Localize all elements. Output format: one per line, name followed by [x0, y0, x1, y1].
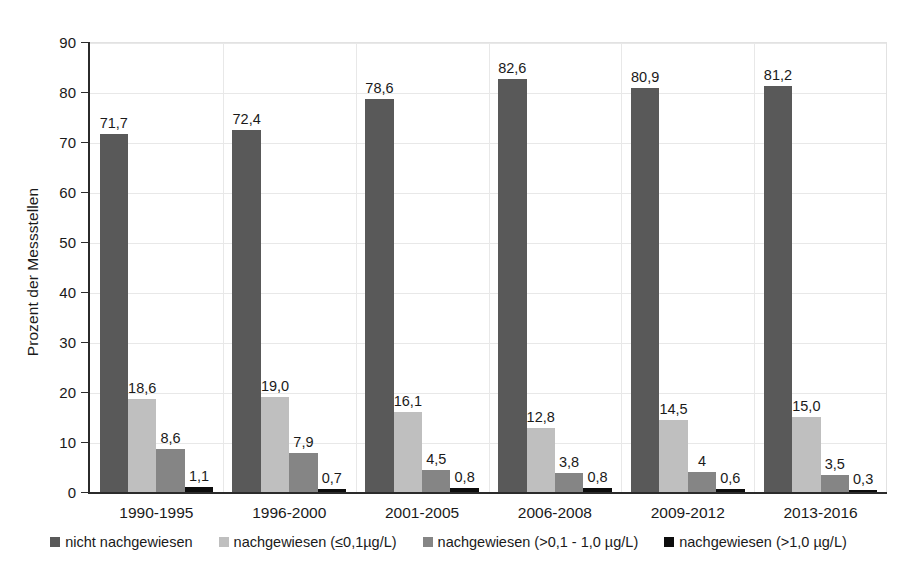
bar[interactable]: 7,9 — [289, 453, 317, 493]
x-axis-label: 1990-1995 — [90, 504, 223, 522]
bar[interactable]: 15,0 — [792, 417, 820, 492]
bar-value-label: 18,6 — [128, 380, 156, 396]
bar-group: 82,612,83,80,8 — [489, 43, 622, 492]
legend-swatch-icon — [50, 537, 60, 547]
chart-legend: nicht nachgewiesennachgewiesen (≤0,1µg/L… — [0, 534, 897, 550]
bar-value-label: 82,6 — [498, 60, 526, 76]
y-axis-line — [88, 42, 90, 493]
bar-group: 72,419,07,90,7 — [223, 43, 356, 492]
bar-group: 78,616,14,50,8 — [356, 43, 489, 492]
bar[interactable]: 12,8 — [527, 428, 555, 492]
y-tick-label: 50 — [32, 234, 76, 251]
bar-chart: Prozent der Messstellen 0102030405060708… — [0, 0, 897, 579]
bar[interactable]: 71,7 — [100, 134, 128, 493]
y-tick-label: 20 — [32, 384, 76, 401]
y-tick-label: 40 — [32, 284, 76, 301]
bar-value-label: 0,6 — [720, 470, 740, 486]
plot-area: 71,718,68,61,172,419,07,90,778,616,14,50… — [90, 42, 887, 492]
bar-value-label: 72,4 — [233, 111, 261, 127]
x-axis-label: 2013-2016 — [754, 504, 887, 522]
bar-value-label: 0,3 — [853, 471, 873, 487]
y-tick-label: 10 — [32, 434, 76, 451]
bar[interactable]: 82,6 — [498, 79, 526, 492]
x-axis-label: 1996-2000 — [223, 504, 356, 522]
bar[interactable]: 8,6 — [156, 449, 184, 492]
bar-value-label: 8,6 — [161, 430, 181, 446]
bar[interactable]: 4,5 — [422, 470, 450, 493]
bar-value-label: 3,8 — [559, 454, 579, 470]
legend-swatch-icon — [219, 537, 229, 547]
bar-group: 81,215,03,50,3 — [754, 43, 887, 492]
legend-label: nachgewiesen (≤0,1µg/L) — [234, 534, 397, 550]
bar-value-label: 15,0 — [792, 398, 820, 414]
bar-group: 80,914,540,6 — [621, 43, 754, 492]
bar-value-label: 3,5 — [825, 456, 845, 472]
bar[interactable]: 3,5 — [821, 475, 849, 493]
bar[interactable]: 4 — [688, 472, 716, 492]
y-tick-label: 30 — [32, 334, 76, 351]
bar[interactable]: 72,4 — [232, 130, 260, 492]
legend-swatch-icon — [664, 537, 674, 547]
bar[interactable]: 18,6 — [128, 399, 156, 492]
bar-value-label: 0,8 — [587, 469, 607, 485]
bar[interactable]: 14,5 — [659, 420, 687, 493]
bar-value-label: 81,2 — [764, 67, 792, 83]
bar[interactable]: 80,9 — [631, 88, 659, 493]
bar-value-label: 4 — [698, 453, 706, 469]
bar[interactable]: 3,8 — [555, 473, 583, 492]
bar-value-label: 12,8 — [527, 409, 555, 425]
bar-value-label: 71,7 — [100, 115, 128, 131]
bar-value-label: 19,0 — [261, 378, 289, 394]
bar-value-label: 4,5 — [426, 451, 446, 467]
bar[interactable]: 19,0 — [261, 397, 289, 492]
bar-value-label: 16,1 — [394, 393, 422, 409]
bar[interactable]: 16,1 — [394, 412, 422, 493]
x-axis-label: 2001-2005 — [356, 504, 489, 522]
x-axis-line — [88, 492, 887, 494]
legend-label: nachgewiesen (>0,1 - 1,0 µg/L) — [438, 534, 639, 550]
y-tick-label: 80 — [32, 84, 76, 101]
y-tick-label: 0 — [32, 484, 76, 501]
bar-value-label: 14,5 — [659, 401, 687, 417]
legend-item[interactable]: nachgewiesen (≤0,1µg/L) — [219, 534, 397, 550]
bar-value-label: 78,6 — [365, 80, 393, 96]
bar-value-label: 1,1 — [189, 468, 209, 484]
legend-label: nicht nachgewiesen — [65, 534, 192, 550]
y-tick-label: 70 — [32, 134, 76, 151]
y-tick-label: 90 — [32, 34, 76, 51]
legend-item[interactable]: nachgewiesen (>1,0 µg/L) — [664, 534, 847, 550]
legend-label: nachgewiesen (>1,0 µg/L) — [679, 534, 847, 550]
bar[interactable]: 81,2 — [764, 86, 792, 492]
bar-value-label: 80,9 — [631, 69, 659, 85]
x-axis-label: 2006-2008 — [489, 504, 622, 522]
bar-value-label: 7,9 — [293, 434, 313, 450]
bar-value-label: 0,8 — [455, 469, 475, 485]
legend-swatch-icon — [423, 537, 433, 547]
y-tick-label: 60 — [32, 184, 76, 201]
bar-group: 71,718,68,61,1 — [90, 43, 223, 492]
x-axis-label: 2009-2012 — [621, 504, 754, 522]
bar-value-label: 0,7 — [322, 470, 342, 486]
legend-item[interactable]: nachgewiesen (>0,1 - 1,0 µg/L) — [423, 534, 639, 550]
bar[interactable]: 78,6 — [365, 99, 393, 492]
legend-item[interactable]: nicht nachgewiesen — [50, 534, 192, 550]
